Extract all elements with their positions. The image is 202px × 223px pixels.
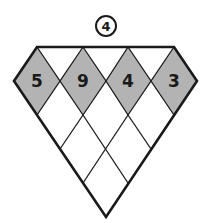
puzzle-label-badge: 4 [96,16,116,36]
number-pyramid-diagram: 4 5 9 4 3 [0,0,202,223]
cell-value: 5 [31,71,43,91]
cell-value: 9 [77,71,89,91]
cell-value: 3 [168,71,180,91]
grid-lines [37,47,174,217]
puzzle-label: 4 [101,19,110,34]
cell-value: 4 [122,71,134,91]
